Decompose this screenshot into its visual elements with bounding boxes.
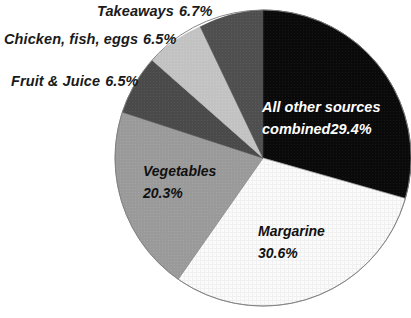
pie-label-takeaways-name: Takeaways [97,3,174,19]
pie-label-all-other-line1: All other sources [262,99,380,115]
pie-label-takeaways: Takeaways6.7% [97,4,212,20]
pie-label-all-other-line2: combined29.4% [262,118,380,140]
pie-label-vegetables: Vegetables 20.3% [143,161,216,204]
pie-label-chicken-fish-eggs-value: 6.5% [143,31,176,47]
pie-label-vegetables-name: Vegetables [143,163,216,179]
pie-label-fruit-and-juice-name: Fruit & Juice [11,73,100,89]
pie-label-all-other-line2-text: combined [262,121,330,137]
pie-chart-figure: Takeaways6.7% Chicken, fish, eggs6.5% Fr… [0,0,411,318]
pie-label-margarine-value: 30.6% [258,243,325,265]
pie-label-chicken-fish-eggs-name: Chicken, fish, eggs [4,31,138,47]
pie-label-all-other-value: 29.4% [330,121,371,137]
pie-label-takeaways-value: 6.7% [179,3,212,19]
pie-label-margarine: Margarine 30.6% [258,221,325,264]
pie-label-all-other-sources-combined: All other sources combined29.4% [262,96,380,141]
pie-label-fruit-and-juice-value: 6.5% [105,73,138,89]
pie-label-vegetables-value: 20.3% [143,183,216,205]
pie-label-margarine-name: Margarine [258,223,325,239]
pie-label-fruit-and-juice: Fruit & Juice6.5% [11,74,139,90]
pie-label-chicken-fish-eggs: Chicken, fish, eggs6.5% [4,32,177,48]
